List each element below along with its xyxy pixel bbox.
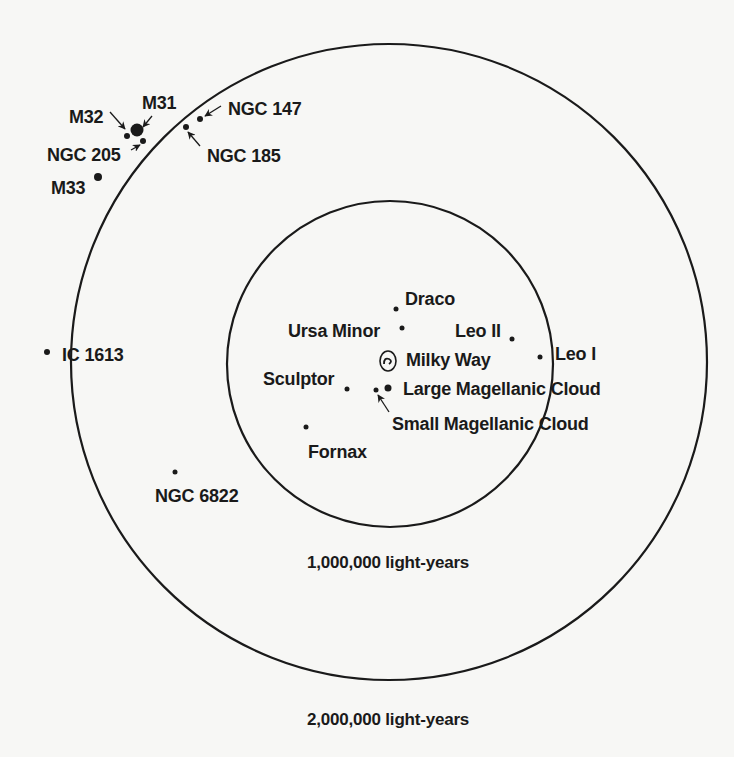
arrow-ngc-185 <box>188 132 200 146</box>
galaxy-dot-fornax <box>304 425 309 430</box>
galaxy-label-ngc-205: NGC 205 <box>47 146 121 164</box>
milky-way-spiral-icon <box>380 351 396 371</box>
galaxy-dot-m31 <box>131 124 144 137</box>
arrow-small-magellanic-cloud <box>378 395 389 412</box>
galaxy-label-draco: Draco <box>405 290 455 308</box>
galaxy-label-ic-1613: IC 1613 <box>62 346 124 364</box>
galaxy-label-milky-way: Milky Way <box>406 351 491 369</box>
galaxy-label-m33: M33 <box>51 179 85 197</box>
arrow-m32 <box>110 112 125 129</box>
galaxy-dot-ic-1613 <box>44 349 50 355</box>
galaxy-label-ursa-minor: Ursa Minor <box>288 322 380 340</box>
galaxy-label-leo-ii: Leo II <box>455 322 501 340</box>
galaxy-dot-ngc-6822 <box>173 470 178 475</box>
galaxy-dot-sculptor <box>345 387 350 392</box>
galaxy-label-sculptor: Sculptor <box>263 370 334 388</box>
arrow-ngc-147 <box>205 106 221 116</box>
distance-rings <box>71 44 707 680</box>
outer-ring-label: 2,000,000 light-years <box>307 711 469 728</box>
arrow-m31 <box>143 116 152 127</box>
galaxy-dot-m32 <box>124 133 130 139</box>
galaxy-dot-ngc-147 <box>197 116 203 122</box>
galaxy-label-small-magellanic-cloud: Small Magellanic Cloud <box>392 415 589 433</box>
galaxy-label-leo-i: Leo I <box>555 345 596 363</box>
galaxy-dot-m33 <box>94 173 102 181</box>
galaxy-dot-leo-ii <box>510 337 515 342</box>
galaxy-label-fornax: Fornax <box>308 443 367 461</box>
outer-ring <box>71 44 707 680</box>
arrow-ngc-205 <box>131 145 140 150</box>
galaxy-label-ngc-147: NGC 147 <box>228 100 302 118</box>
inner-ring-label: 1,000,000 light-years <box>307 554 469 571</box>
galaxy-label-m32: M32 <box>69 108 103 126</box>
galaxy-label-large-magellanic-cloud: Large Magellanic Cloud <box>403 380 601 398</box>
galaxy-label-m31: M31 <box>142 94 176 112</box>
galaxy-dot-draco <box>394 307 399 312</box>
galaxy-dot-large-magellanic-cloud <box>385 385 392 392</box>
galaxy-dot-ursa-minor <box>400 326 405 331</box>
galaxy-dot-ngc-205 <box>140 138 146 144</box>
galaxy-dot-small-magellanic-cloud <box>374 388 379 393</box>
galaxy-label-ngc-6822: NGC 6822 <box>155 487 238 505</box>
local-group-diagram <box>0 0 734 757</box>
galaxy-dot-ngc-185 <box>183 124 189 130</box>
galaxy-dot-leo-i <box>538 355 543 360</box>
galaxy-label-ngc-185: NGC 185 <box>207 147 281 165</box>
